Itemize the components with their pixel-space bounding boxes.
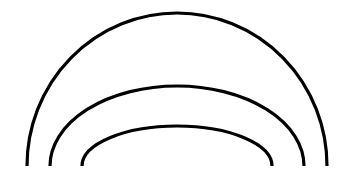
- figure-canvas: [0, 0, 352, 179]
- concentric-arcs-svg: [0, 0, 352, 179]
